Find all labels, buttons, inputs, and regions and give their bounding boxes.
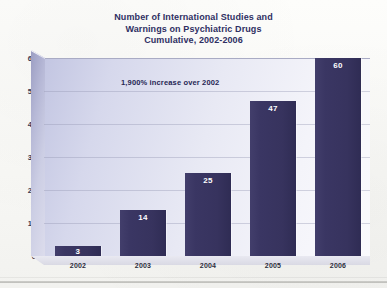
bar-2005[interactable]: 47	[250, 101, 296, 256]
x-axis: 2002 2003 2004 2005 2006	[44, 262, 370, 278]
chart-title: Number of International Studies and Warn…	[0, 12, 387, 47]
bar-2003[interactable]: 14	[120, 210, 166, 256]
bar-group-2005[interactable]: 47	[250, 101, 296, 256]
x-tick-2005: 2005	[250, 262, 296, 269]
bar-chart: Number of International Studies and Warn…	[0, 0, 387, 288]
x-tick-2004: 2004	[185, 262, 231, 269]
scan-divider-soft	[0, 277, 387, 278]
plot-area: 3 14 25 47 60	[44, 58, 370, 256]
increase-annotation: 1,900% increase over 2002	[121, 78, 219, 87]
bar-value-2006: 60	[333, 61, 343, 70]
bar-series: 3 14 25 47 60	[44, 58, 370, 256]
bar-group-2003[interactable]: 14	[120, 210, 166, 256]
scan-divider	[0, 281, 387, 283]
bar-group-2004[interactable]: 25	[185, 173, 231, 256]
bar-value-2003: 14	[138, 213, 148, 222]
bar-group-2006[interactable]: 60	[315, 58, 361, 256]
bar-value-2002: 3	[76, 247, 81, 256]
x-tick-2006: 2006	[315, 262, 361, 269]
plot-side-wall	[31, 50, 45, 256]
bar-2002[interactable]: 3	[55, 246, 101, 256]
chart-title-line-3: Cumulative, 2002-2006	[0, 35, 387, 47]
bar-2004[interactable]: 25	[185, 173, 231, 256]
chart-title-line-2: Warnings on Psychiatric Drugs	[0, 24, 387, 36]
x-tick-2003: 2003	[120, 262, 166, 269]
bar-value-2005: 47	[268, 104, 278, 113]
chart-title-line-1: Number of International Studies and	[0, 12, 387, 24]
bar-2006[interactable]: 60	[315, 58, 361, 256]
x-tick-2002: 2002	[55, 262, 101, 269]
bar-group-2002[interactable]: 3	[55, 246, 101, 256]
bar-value-2004: 25	[203, 176, 213, 185]
